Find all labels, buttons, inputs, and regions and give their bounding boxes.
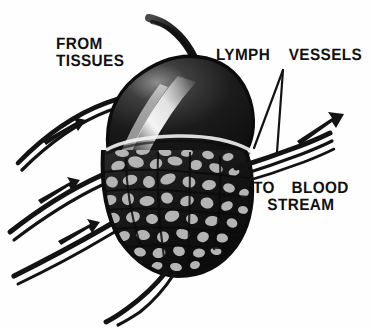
lymph-vessels-leader-line [254, 70, 283, 152]
label-lymph-vessels: LYMPH VESSELS [216, 47, 362, 64]
inferior-vessel [106, 272, 174, 325]
label-to-blood-stream: TO BLOOD STREAM [253, 180, 349, 215]
afferent-arrow-1 [43, 117, 86, 145]
label-from-tissues: FROM TISSUES [56, 36, 124, 71]
lymph-node-figure: FROM TISSUES LYMPH VESSELS TO BLOOD STRE… [0, 0, 371, 328]
